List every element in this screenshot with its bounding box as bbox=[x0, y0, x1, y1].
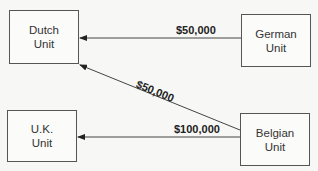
edge-label-german-dutch: $50,000 bbox=[176, 24, 216, 36]
dutch-unit-node: Dutch Unit bbox=[9, 10, 79, 64]
german-unit-node: German Unit bbox=[241, 14, 311, 67]
german-unit-label: German Unit bbox=[255, 27, 297, 55]
edge-label-belgian-uk: $100,000 bbox=[174, 123, 220, 135]
dutch-unit-label: Dutch Unit bbox=[29, 23, 59, 51]
uk-unit-label: U.K. Unit bbox=[31, 122, 53, 150]
belgian-unit-label: Belgian Unit bbox=[256, 126, 294, 154]
uk-unit-node: U.K. Unit bbox=[7, 110, 77, 162]
belgian-unit-node: Belgian Unit bbox=[240, 113, 310, 166]
